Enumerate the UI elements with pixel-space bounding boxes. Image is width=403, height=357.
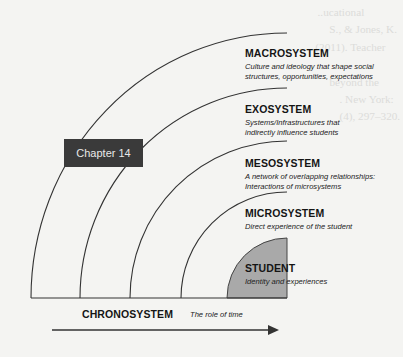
- macrosystem-title: MACROSYSTEM: [245, 47, 374, 59]
- desc-line: Systems/Infrastructures that: [245, 118, 340, 128]
- desc-line: Culture and ideology that shape social: [245, 62, 374, 72]
- chronosystem-description: The role of time: [190, 310, 243, 319]
- desc-line: Identity and experiences: [245, 277, 327, 287]
- desc-line: structures, opportunities, expectations: [245, 72, 374, 82]
- exosystem-description: Systems/Infrastructures that indirectly …: [245, 118, 340, 138]
- microsystem-title: MICROSYSTEM: [245, 207, 352, 219]
- student-title: STUDENT: [245, 262, 327, 274]
- desc-line: A network of overlapping relationships:: [245, 172, 375, 182]
- macrosystem-label: MACROSYSTEM Culture and ideology that sh…: [245, 47, 374, 82]
- microsystem-label: MICROSYSTEM Direct experience of the stu…: [245, 207, 352, 232]
- time-arrow-head-icon: [268, 325, 279, 335]
- desc-line: Interactions of microsystems: [245, 182, 375, 192]
- exosystem-label: EXOSYSTEM Systems/Infrastructures that i…: [245, 103, 340, 138]
- chronosystem-title: CHRONOSYSTEM: [82, 308, 173, 320]
- desc-line: Direct experience of the student: [245, 222, 352, 232]
- chapter-label: Chapter 14: [76, 147, 130, 159]
- mesosystem-description: A network of overlapping relationships: …: [245, 172, 375, 192]
- macrosystem-description: Culture and ideology that shape social s…: [245, 62, 374, 82]
- desc-line: indirectly influence students: [245, 128, 340, 138]
- student-label: STUDENT Identity and experiences: [245, 262, 327, 287]
- chapter-badge: Chapter 14: [64, 139, 143, 167]
- microsystem-description: Direct experience of the student: [245, 222, 352, 232]
- mesosystem-label: MESOSYSTEM A network of overlapping rela…: [245, 157, 375, 192]
- student-description: Identity and experiences: [245, 277, 327, 287]
- mesosystem-title: MESOSYSTEM: [245, 157, 375, 169]
- exosystem-title: EXOSYSTEM: [245, 103, 340, 115]
